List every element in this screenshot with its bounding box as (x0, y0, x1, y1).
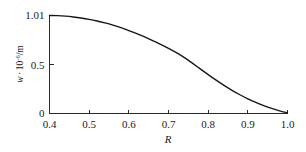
figure-container: 0.40.50.60.70.80.91.0 00.51.01 R w·10-6/… (0, 0, 306, 152)
x-axis-title: R (164, 133, 172, 145)
y-tick-label: 0 (39, 107, 45, 119)
x-tick-label: 0.6 (122, 118, 136, 130)
y-axis-tick-labels: 00.51.01 (25, 9, 45, 119)
line-chart: 0.40.50.60.70.80.91.0 00.51.01 R w·10-6/… (0, 0, 306, 152)
x-axis-tick-labels: 0.40.50.60.70.80.91.0 (43, 118, 295, 130)
x-tick-label: 0.4 (43, 118, 57, 130)
y-axis-tick-marks (50, 16, 54, 65)
axis-spines (50, 16, 288, 114)
x-tick-label: 0.9 (241, 118, 255, 130)
x-tick-label: 0.7 (162, 118, 176, 130)
y-axis-unit: /m (15, 45, 25, 56)
y-tick-label: 1.01 (25, 9, 44, 21)
data-curve (50, 16, 288, 113)
y-axis-separator: · (15, 72, 25, 75)
x-tick-label: 1.0 (281, 118, 295, 130)
y-axis-base: 10 (15, 60, 25, 70)
x-tick-label: 0.8 (201, 118, 215, 130)
x-axis-tick-marks (50, 110, 288, 114)
y-tick-label: 0.5 (31, 59, 45, 71)
y-axis-symbol: w (15, 76, 25, 83)
x-tick-label: 0.5 (82, 118, 96, 130)
y-axis-title: w·10-6/m (14, 45, 26, 83)
